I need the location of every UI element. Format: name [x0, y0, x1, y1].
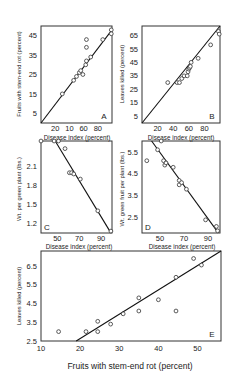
data-point — [109, 229, 113, 233]
data-point — [89, 55, 93, 59]
panel-c-label: C — [44, 223, 50, 232]
panel-c-xticks: 507090 — [53, 234, 105, 243]
y-tick-label: 65 — [130, 31, 138, 40]
data-point — [96, 209, 100, 213]
data-point — [109, 28, 113, 32]
x-tick-label: 90 — [204, 234, 212, 243]
y-tick-label: 5.5 — [27, 280, 37, 289]
y-tick-label: 55 — [130, 45, 138, 54]
y-tick-label: 4.5 — [27, 299, 37, 308]
data-point — [164, 161, 168, 165]
data-point — [171, 165, 175, 169]
data-point — [84, 63, 88, 67]
data-point — [137, 296, 141, 300]
data-point — [185, 187, 189, 191]
x-tick-label: 20 — [51, 124, 59, 133]
panel-b-label: B — [209, 112, 214, 121]
panel-a-yticks: 515253545 — [29, 31, 37, 118]
data-point — [217, 32, 221, 36]
data-point — [166, 81, 170, 85]
panel-b-ylabel: Leaves killed (percent) — [119, 45, 125, 103]
panel-d-ylabel: Wt. green fruit per plant (lbs.) — [119, 151, 125, 226]
data-point — [156, 148, 160, 152]
x-tick-label: 70 — [75, 234, 83, 243]
data-point — [60, 92, 64, 96]
data-point — [174, 309, 178, 313]
data-point — [85, 38, 89, 42]
panel-d: D 2.53.54.55.5 507090 Disease index (per… — [119, 139, 220, 251]
x-tick-label: 90 — [97, 234, 105, 243]
y-tick-label: 45 — [29, 31, 37, 40]
panel-e: E 2.53.54.55.56.5 1020304050 Fruits with… — [16, 251, 221, 371]
data-point — [174, 275, 178, 279]
data-point — [72, 172, 76, 176]
panel-d-xticks: 507090 — [156, 234, 212, 243]
panel-a: A 515253545 20106080 Disease index (perc… — [16, 26, 113, 142]
data-point — [72, 78, 76, 82]
panel-b-fit-line — [142, 26, 220, 123]
panel-e-marks — [57, 251, 221, 341]
panel-a-marks — [41, 28, 113, 123]
data-point — [96, 330, 100, 334]
panel-c-ylabel: Wt. per green plant (lbs.) — [16, 157, 22, 221]
data-point — [156, 298, 160, 302]
y-tick-label: 5 — [134, 112, 138, 121]
data-point — [159, 139, 163, 143]
y-tick-label: 25 — [130, 85, 138, 94]
panel-e-ylabel: Leaves killed (percent) — [16, 267, 22, 325]
x-tick-label: 40 — [154, 344, 162, 353]
data-point — [189, 60, 193, 64]
x-tick-label: 30 — [115, 344, 123, 353]
panel-c-yticks: 1.21.51.82.1 — [27, 162, 37, 228]
data-point — [178, 81, 182, 85]
data-point — [84, 330, 88, 334]
y-tick-label: 6.5 — [27, 262, 37, 271]
panel-d-xlabel: Disease index (percent) — [149, 243, 216, 251]
panel-d-label: D — [145, 223, 151, 232]
y-tick-label: 2.1 — [27, 162, 37, 171]
data-point — [39, 139, 43, 143]
x-tick-label: 50 — [156, 234, 164, 243]
panel-e-yticks: 2.53.54.55.56.5 — [27, 262, 37, 346]
panel-d-fit-line — [152, 141, 218, 232]
x-tick-label: 10 — [37, 344, 45, 353]
y-tick-label: 1.5 — [27, 200, 37, 209]
panel-d-yticks: 2.53.54.55.5 — [128, 148, 138, 223]
x-tick-label: 80 — [200, 124, 208, 133]
x-tick-label: 80 — [94, 124, 102, 133]
panel-e-label: E — [209, 330, 214, 339]
data-point — [215, 225, 219, 229]
x-tick-label: 70 — [180, 234, 188, 243]
data-point — [109, 32, 113, 36]
data-point — [63, 147, 67, 151]
y-tick-label: 35 — [29, 51, 37, 60]
panel-c-frame — [41, 141, 112, 233]
data-point — [121, 312, 125, 316]
x-tick-label: 50 — [193, 344, 201, 353]
panel-a-xticks: 20106080 — [51, 124, 102, 133]
y-tick-label: 1.2 — [27, 219, 37, 228]
y-tick-label: 3.5 — [27, 318, 37, 327]
data-point — [185, 74, 189, 78]
data-point — [196, 56, 200, 60]
panel-c-marks — [39, 139, 113, 233]
data-point — [145, 159, 149, 163]
panel-b-yticks: 5152535455565 — [130, 31, 138, 121]
y-tick-label: 15 — [29, 90, 37, 99]
data-point — [180, 181, 184, 185]
x-tick-label: 40 — [169, 124, 177, 133]
data-point — [188, 65, 192, 69]
y-tick-label: 5.5 — [128, 148, 138, 157]
y-tick-label: 3.5 — [128, 191, 138, 200]
panel-d-marks — [145, 139, 220, 233]
x-tick-label: 10 — [65, 124, 73, 133]
data-point — [109, 322, 113, 326]
data-point — [81, 73, 85, 77]
data-point — [85, 59, 89, 63]
y-tick-label: 4.5 — [128, 169, 138, 178]
panel-c-fit-line — [55, 141, 110, 231]
panel-c: C 1.21.51.82.1 507090 Disease index (per… — [16, 139, 113, 251]
data-point — [209, 43, 213, 47]
data-point — [216, 229, 220, 233]
x-tick-label: 20 — [76, 344, 84, 353]
